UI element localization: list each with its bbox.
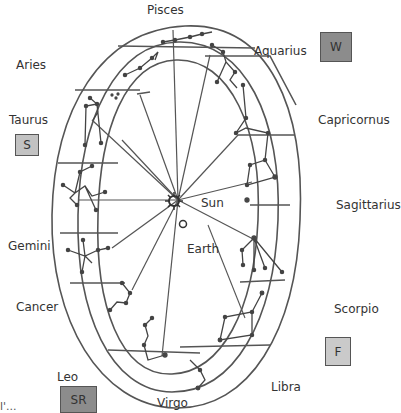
sun-label: Sun <box>201 196 224 210</box>
label-sagittarius: Sagittarius <box>336 198 401 212</box>
season-box-label: SR <box>71 393 87 407</box>
constellation-figure-leo <box>108 281 131 311</box>
label-cancer: Cancer <box>16 300 58 314</box>
cropped-text-fragment: l'... <box>0 400 17 413</box>
label-gemini: Gemini <box>8 239 51 253</box>
label-capricornus: Capricornus <box>318 113 390 127</box>
season-box-label: W <box>330 40 342 54</box>
season-box-sr: SR <box>60 386 97 413</box>
inner-ellipse <box>98 60 259 374</box>
season-box-f: F <box>325 337 351 366</box>
constellation-figure-scorpio <box>218 291 264 342</box>
label-leo: Leo <box>57 370 78 384</box>
label-taurus: Taurus <box>9 113 48 127</box>
season-box-w: W <box>320 32 352 62</box>
label-aries: Aries <box>16 58 46 72</box>
earth-icon <box>180 221 187 228</box>
middle-ellipse <box>78 42 278 392</box>
label-aquarius: Aquarius <box>254 44 307 58</box>
label-scorpio: Scorpio <box>334 302 379 316</box>
earth-label: Earth <box>187 242 219 256</box>
season-box-label: F <box>335 345 342 359</box>
constellation-figure-gemini <box>66 238 109 273</box>
label-pisces: Pisces <box>147 3 184 17</box>
season-box-label: S <box>23 138 31 152</box>
label-libra: Libra <box>271 380 301 394</box>
season-box-s: S <box>15 134 39 156</box>
label-virgo: Virgo <box>157 396 188 410</box>
